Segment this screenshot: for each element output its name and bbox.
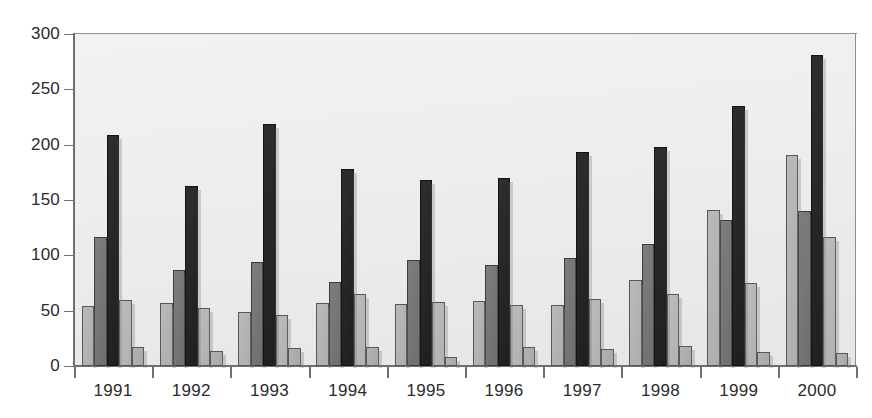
bar-1999-series-1 [707, 210, 720, 366]
y-axis-tick [64, 34, 74, 35]
bar-1997-series-1 [551, 305, 564, 366]
y-axis-tick [64, 200, 74, 201]
x-axis-tick [74, 367, 76, 378]
bar-group [238, 0, 301, 366]
bar-1997-series-3 [576, 152, 589, 366]
bar-2000-series-5 [836, 353, 849, 366]
bar-1998-series-5 [679, 346, 692, 366]
x-axis-tick [856, 367, 858, 378]
bar-group [160, 0, 223, 366]
bar-2000-series-1 [786, 155, 799, 366]
bar-1999-series-5 [757, 352, 770, 366]
bar-1992-series-1 [160, 303, 173, 366]
x-axis-tick [543, 367, 545, 378]
bar-1995-series-5 [445, 357, 458, 366]
bar-1994-series-1 [316, 303, 329, 366]
y-axis-tick-label: 250 [14, 80, 60, 97]
bar-chart: 050100150200250300 199119921993199419951… [0, 0, 872, 418]
bar-1998-series-3 [654, 147, 667, 366]
plot-right-border [855, 33, 856, 367]
bar-1999-series-3 [732, 106, 745, 366]
bar-1991-series-3 [107, 135, 120, 366]
x-axis-tick [700, 367, 702, 378]
bar-1994-series-3 [341, 169, 354, 366]
bar-group [629, 0, 692, 366]
x-axis-tick-label-1998: 1998 [621, 382, 701, 399]
bar-group [473, 0, 536, 366]
y-axis-tick [64, 89, 74, 90]
x-axis-tick [465, 367, 467, 378]
x-axis-tick [152, 367, 154, 378]
x-axis-tick-label-1999: 1999 [699, 382, 779, 399]
bar-group [82, 0, 145, 366]
bar-1995-series-1 [395, 304, 408, 366]
bar-group [316, 0, 379, 366]
bar-1998-series-1 [629, 280, 642, 366]
y-axis-tick-label: 0 [14, 357, 60, 374]
bar-1997-series-5 [601, 349, 614, 366]
x-axis-tick-label-1991: 1991 [73, 382, 153, 399]
bar-1993-series-3 [263, 124, 276, 366]
y-axis-tick-label: 200 [14, 136, 60, 153]
y-axis-tick-label: 300 [14, 25, 60, 42]
x-axis-tick-label-1996: 1996 [464, 382, 544, 399]
y-axis-tick [64, 366, 74, 367]
bar-1991-series-1 [82, 306, 95, 366]
x-axis-tick [309, 367, 311, 378]
bar-group [395, 0, 458, 366]
y-axis-tick [64, 311, 74, 312]
bar-1996-series-3 [498, 178, 511, 366]
x-axis-tick [778, 367, 780, 378]
bar-1996-series-5 [523, 347, 536, 366]
x-axis-tick-label-1994: 1994 [308, 382, 388, 399]
bar-1994-series-5 [366, 347, 379, 366]
x-axis-tick-label-1997: 1997 [542, 382, 622, 399]
x-axis-tick-label-1992: 1992 [151, 382, 231, 399]
bar-group [786, 0, 849, 366]
bar-2000-series-3 [811, 55, 824, 366]
x-axis-tick [621, 367, 623, 378]
y-axis-tick [64, 255, 74, 256]
bar-1996-series-1 [473, 301, 486, 366]
bar-1993-series-5 [288, 348, 301, 366]
x-axis-tick [230, 367, 232, 378]
bar-group [551, 0, 614, 366]
bar-1992-series-5 [210, 351, 223, 366]
y-axis-tick [64, 145, 74, 146]
y-axis-tick-label: 50 [14, 302, 60, 319]
bar-1991-series-5 [132, 347, 145, 366]
bar-1993-series-1 [238, 312, 251, 366]
x-axis-tick-label-1995: 1995 [386, 382, 466, 399]
y-axis-tick-label: 150 [14, 191, 60, 208]
bar-group [707, 0, 770, 366]
bar-1992-series-3 [185, 186, 198, 366]
x-axis-tick [387, 367, 389, 378]
y-axis-tick-label: 100 [14, 246, 60, 263]
bar-1995-series-3 [420, 180, 433, 366]
x-axis-tick-label-1993: 1993 [230, 382, 310, 399]
x-axis-tick-label-2000: 2000 [777, 382, 857, 399]
